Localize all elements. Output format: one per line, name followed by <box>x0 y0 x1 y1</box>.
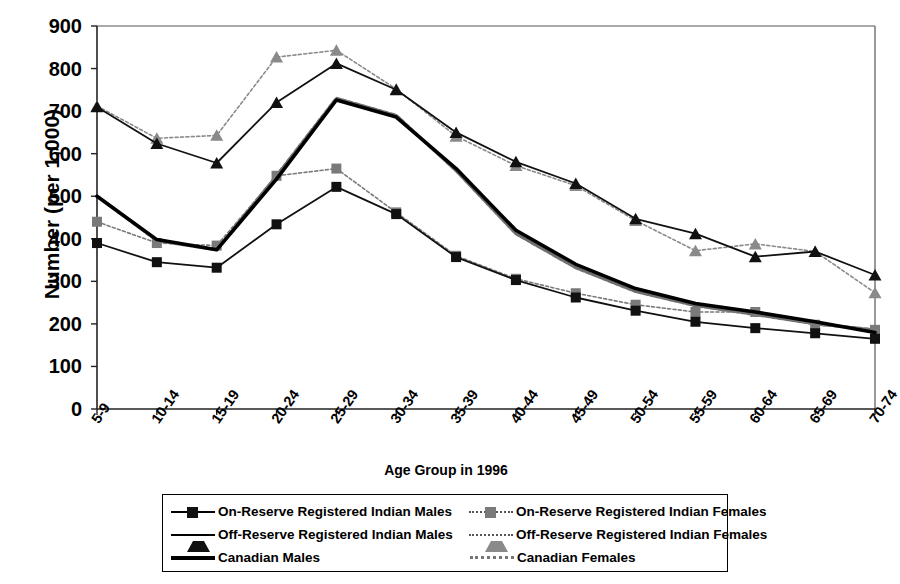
y-tick-label: 100 <box>0 356 82 376</box>
data-point-marker <box>569 177 582 189</box>
y-tick-label: 800 <box>0 59 82 79</box>
data-point-marker <box>210 129 223 141</box>
y-tick-label: 200 <box>0 314 82 334</box>
data-point-marker <box>511 275 521 285</box>
data-point-marker <box>690 307 700 317</box>
data-point-marker <box>270 97 283 109</box>
legend-item[interactable]: On-Reserve Registered Indian Females <box>469 504 719 519</box>
data-point-marker <box>152 257 162 267</box>
data-point-marker <box>509 156 522 168</box>
data-point-marker <box>212 263 222 273</box>
legend-label: On-Reserve Registered Indian Males <box>218 504 452 519</box>
legend-key-icon <box>171 551 215 565</box>
y-tick-label: 0 <box>0 399 82 419</box>
y-tick-label: 300 <box>0 271 82 291</box>
legend-item[interactable]: Canadian Males <box>171 550 470 565</box>
data-point-marker <box>331 164 341 174</box>
y-tick-label: 600 <box>0 144 82 164</box>
series-line <box>97 98 875 329</box>
data-point-marker <box>91 101 104 113</box>
y-tick-label: 500 <box>0 186 82 206</box>
legend-label: Canadian Males <box>218 550 320 565</box>
legend-item[interactable]: Off-Reserve Registered Indian Females <box>469 527 719 542</box>
x-axis-title: Age Group in 1996 <box>0 462 892 478</box>
y-tick-label: 700 <box>0 101 82 121</box>
legend-key-icon <box>469 505 513 519</box>
data-point-marker <box>272 219 282 229</box>
legend-label: Off-Reserve Registered Indian Females <box>516 527 767 542</box>
data-point-marker <box>270 51 283 63</box>
chart-legend: On-Reserve Registered Indian MalesOn-Res… <box>162 494 728 572</box>
legend-key-icon <box>171 505 215 519</box>
data-point-marker <box>92 238 102 248</box>
y-tick-label: 900 <box>0 16 82 36</box>
data-point-marker <box>451 252 461 262</box>
data-point-marker <box>869 269 882 281</box>
data-point-marker <box>690 317 700 327</box>
data-point-marker <box>571 293 581 303</box>
data-point-marker <box>92 217 102 227</box>
data-point-marker <box>869 287 882 299</box>
data-point-marker <box>330 57 343 69</box>
legend-item[interactable]: Off-Reserve Registered Indian Males <box>171 527 469 542</box>
data-point-marker <box>391 209 401 219</box>
legend-row: On-Reserve Registered Indian MalesOn-Res… <box>171 500 719 523</box>
data-point-marker <box>331 182 341 192</box>
data-point-marker <box>870 334 880 344</box>
data-point-marker <box>750 323 760 333</box>
legend-item[interactable]: Canadian Females <box>470 550 719 565</box>
legend-label: Canadian Females <box>517 550 636 565</box>
data-point-marker <box>631 306 641 316</box>
data-point-marker <box>330 44 343 56</box>
legend-key-icon <box>469 528 513 542</box>
legend-item[interactable]: On-Reserve Registered Indian Males <box>171 504 469 519</box>
legend-key-icon <box>470 551 514 565</box>
legend-label: Off-Reserve Registered Indian Males <box>218 527 453 542</box>
legend-row: Off-Reserve Registered Indian MalesOff-R… <box>171 523 719 546</box>
legend-row: Canadian MalesCanadian Females <box>171 546 719 569</box>
y-tick-label: 400 <box>0 229 82 249</box>
data-point-marker <box>810 328 820 338</box>
legend-key-icon <box>171 528 215 542</box>
legend-label: On-Reserve Registered Indian Females <box>516 504 767 519</box>
